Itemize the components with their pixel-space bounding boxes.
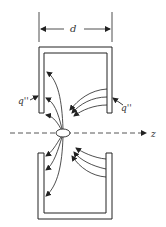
flux-lines-lower	[46, 137, 106, 196]
lower-enclosure	[38, 153, 112, 219]
left-flux-arrow	[30, 96, 38, 100]
diagram-canvas: d z q'' q''	[0, 0, 166, 227]
dimension-label: d	[70, 23, 76, 34]
flux-lines-upper	[46, 72, 107, 129]
right-flux-label: q''	[121, 103, 132, 113]
left-flux-label: q''	[18, 96, 29, 106]
heat-source	[56, 129, 70, 137]
axis-label: z	[150, 129, 156, 139]
upper-enclosure	[39, 47, 112, 113]
